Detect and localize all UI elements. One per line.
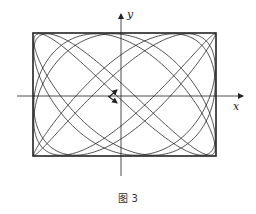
figure-caption: 图 3 xyxy=(0,190,256,205)
arrow-down-right-icon xyxy=(108,96,117,103)
y-axis-label: y xyxy=(127,8,133,21)
x-axis-label: x xyxy=(233,100,239,113)
bounding-rectangle xyxy=(33,33,216,156)
trajectory-curve xyxy=(34,34,215,155)
lissajous-figure xyxy=(0,0,256,214)
